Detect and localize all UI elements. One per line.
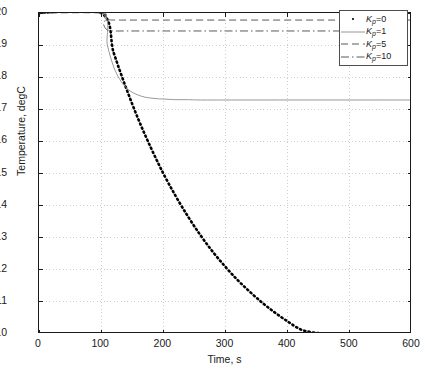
y-tick-label: 11 bbox=[0, 295, 7, 306]
x-tick-label: 0 bbox=[16, 338, 60, 349]
y-tick-label: 17 bbox=[0, 102, 7, 113]
legend-line-sample bbox=[340, 51, 366, 63]
legend-line-sample bbox=[340, 26, 366, 38]
y-tick-label: 18 bbox=[0, 70, 7, 81]
legend-item: Kp=10 bbox=[340, 51, 407, 64]
x-tick-label: 300 bbox=[203, 338, 247, 349]
x-tick-label: 500 bbox=[327, 338, 371, 349]
y-tick-label: 13 bbox=[0, 231, 7, 242]
legend-item: Kp=1 bbox=[340, 26, 407, 39]
legend-line-sample bbox=[340, 13, 366, 25]
x-tick-label: 100 bbox=[78, 338, 122, 349]
legend-label: Kp=5 bbox=[366, 40, 386, 49]
legend: Kp=0Kp=1Kp=5Kp=10 bbox=[339, 10, 408, 66]
legend-label: Kp=0 bbox=[366, 15, 386, 24]
y-tick-label: 12 bbox=[0, 263, 7, 274]
y-tick-label: 10 bbox=[0, 327, 7, 338]
x-tick-label: 600 bbox=[389, 338, 425, 349]
y-tick-label: 15 bbox=[0, 167, 7, 178]
y-tick-label: 20 bbox=[0, 6, 7, 17]
legend-line-sample bbox=[340, 38, 366, 50]
y-axis-title: Temperature, degC bbox=[15, 61, 27, 201]
x-axis-title: Time, s bbox=[38, 353, 411, 365]
figure: 2019181716151413121110 01002003004005006… bbox=[0, 0, 425, 371]
legend-label: Kp=1 bbox=[366, 27, 386, 36]
y-tick-label: 14 bbox=[0, 199, 7, 210]
x-tick-label: 400 bbox=[265, 338, 309, 349]
legend-label: Kp=10 bbox=[366, 52, 391, 61]
y-tick-label: 16 bbox=[0, 134, 7, 145]
legend-item: Kp=5 bbox=[340, 38, 407, 51]
y-tick-label: 19 bbox=[0, 38, 7, 49]
x-tick-label: 200 bbox=[140, 338, 184, 349]
legend-item: Kp=0 bbox=[340, 13, 407, 26]
